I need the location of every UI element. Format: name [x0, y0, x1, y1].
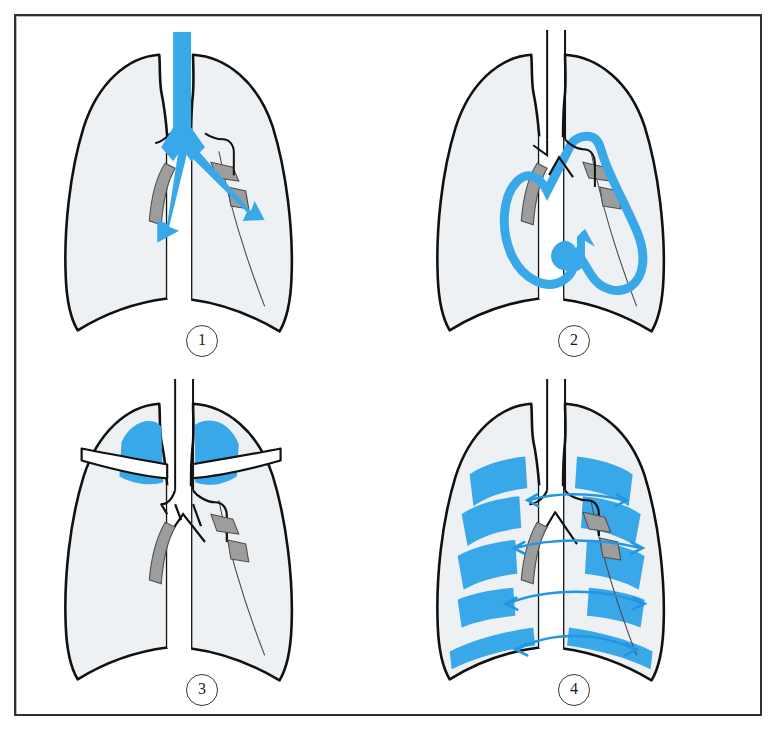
panel-4[interactable]: 4 [388, 365, 760, 714]
trachea-blue-column [173, 32, 191, 141]
panel-3[interactable]: 3 [16, 365, 388, 714]
panel-3-illustration [16, 365, 388, 714]
panel-1[interactable]: 1 [16, 16, 388, 365]
panel-3-number: 3 [186, 674, 218, 706]
right-lung-outline [437, 55, 539, 331]
right-lung-outline [65, 55, 167, 331]
panel-4-illustration [388, 365, 760, 714]
panel-1-number: 1 [186, 325, 218, 357]
panel-4-number: 4 [558, 674, 590, 706]
panel-grid: 1 [16, 16, 760, 714]
figure-root: 1 [0, 0, 782, 744]
mediastinum-shape [539, 485, 563, 653]
panel-2[interactable]: 2 [388, 16, 760, 365]
panel-1-illustration [16, 16, 388, 365]
panel-2-number: 2 [558, 325, 590, 357]
figure-frame: 1 [14, 14, 762, 716]
panel-2-illustration [388, 16, 760, 365]
mediastinum-shape [167, 485, 191, 653]
